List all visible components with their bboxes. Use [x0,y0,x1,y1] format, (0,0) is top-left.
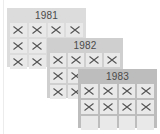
crossed-cell [68,53,84,67]
cross-icon [140,103,151,112]
cross-icon [32,42,43,51]
empty-cell [137,116,154,130]
crossed-cell [137,84,154,98]
cross-icon [53,56,64,65]
crossed-cell [119,84,136,98]
cross-icon [13,26,24,35]
crossed-cell [100,84,117,98]
cross-icon [53,72,64,81]
crossed-cell [29,39,46,53]
empty-cell [81,116,98,130]
cross-icon [84,87,95,96]
crossed-cell [10,23,27,37]
crossed-cell [50,53,66,67]
crossed-cell [50,69,66,83]
cross-icon [53,88,64,97]
crossed-cell [29,23,46,37]
cross-icon [32,26,43,35]
cross-icon [107,56,118,65]
cross-icon [13,58,24,67]
crossed-cell [81,100,98,114]
crossed-cell [29,55,46,69]
card-year-label: 1983 [81,69,154,84]
cross-icon [84,103,95,112]
crossed-cell [10,55,27,69]
cross-icon [121,87,132,96]
card-grid [81,84,154,130]
cross-icon [89,56,100,65]
year-card-1983: 1983 [78,69,157,128]
left-edge-line [3,0,4,134]
crossed-cell [104,53,120,67]
crossed-cell [100,100,117,114]
cross-icon [32,58,43,67]
cross-icon [71,56,82,65]
cross-icon [13,42,24,51]
cross-icon [103,87,114,96]
crossed-cell [50,85,66,99]
cross-icon [121,103,132,112]
card-year-label: 1982 [50,38,120,53]
crossed-cell [137,100,154,114]
cross-icon [140,87,151,96]
crossed-cell [86,53,102,67]
crossed-cell [48,23,65,37]
crossed-cell [81,84,98,98]
empty-cell [119,116,136,130]
cross-icon [50,26,61,35]
card-year-label: 1981 [10,8,83,23]
cross-icon [103,103,114,112]
crossed-cell [10,39,27,53]
cross-icon [69,26,80,35]
crossed-cell [119,100,136,114]
crossed-cell [66,23,83,37]
empty-cell [100,116,117,130]
